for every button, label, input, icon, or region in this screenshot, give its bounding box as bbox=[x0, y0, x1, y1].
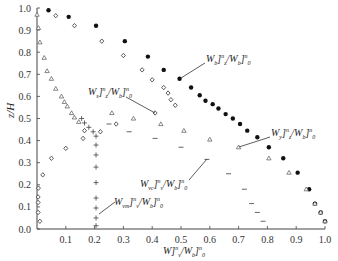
data-point bbox=[59, 94, 63, 98]
data-point bbox=[267, 156, 271, 160]
data-point bbox=[287, 170, 291, 174]
data-point bbox=[64, 146, 68, 150]
curve-label-vm: Wvm]nv/Wb]n0 bbox=[114, 196, 163, 209]
curve-label-vc: Wvc]nv/Wb]n0 bbox=[140, 178, 187, 191]
data-point bbox=[100, 39, 104, 43]
data-point bbox=[69, 111, 73, 115]
data-points bbox=[35, 8, 327, 228]
data-point bbox=[94, 165, 99, 170]
data-point bbox=[255, 135, 259, 139]
data-point bbox=[231, 116, 235, 120]
x-axis-label-den-sub2: 0 bbox=[202, 252, 205, 258]
data-point bbox=[267, 145, 271, 149]
x-axis-label-sup: n bbox=[175, 245, 178, 251]
label-den: /W bbox=[139, 196, 150, 207]
label-sup: n bbox=[158, 178, 161, 184]
data-point bbox=[162, 68, 166, 72]
data-point bbox=[49, 77, 53, 81]
leader-line-b bbox=[181, 63, 205, 78]
data-point bbox=[238, 122, 242, 126]
y-axis-label: z/H bbox=[5, 103, 16, 118]
x-axis-label-den: /W bbox=[181, 245, 192, 256]
data-point bbox=[91, 129, 96, 134]
x-tick-label: 0.1 bbox=[60, 234, 73, 245]
y-tick-label: 0.7 bbox=[19, 69, 32, 80]
curve-label-s: Ws]nz/Wb]n0 bbox=[88, 86, 132, 99]
label-den-sup: n bbox=[157, 196, 160, 202]
label-den: /W bbox=[227, 53, 238, 64]
data-point bbox=[62, 100, 66, 104]
y-tick-label: 0.9 bbox=[19, 25, 32, 36]
data-point bbox=[72, 23, 76, 27]
data-point bbox=[189, 85, 193, 89]
label-sup: n bbox=[286, 127, 289, 133]
x-tick-label: 0.3 bbox=[117, 234, 130, 245]
label-sup: n bbox=[133, 196, 136, 202]
x-tick-label: 0.2 bbox=[88, 234, 101, 245]
data-point bbox=[208, 137, 212, 141]
data-point bbox=[216, 106, 220, 110]
label-den-sub2: 0 bbox=[248, 60, 251, 66]
data-point bbox=[38, 40, 42, 44]
data-point bbox=[182, 128, 186, 132]
y-tick-label: 0.3 bbox=[19, 157, 32, 168]
tick-labels: 0.10.20.30.40.50.60.70.80.91.00.00.10.20… bbox=[19, 3, 332, 246]
data-point bbox=[159, 122, 163, 126]
leader-line-y bbox=[239, 137, 270, 147]
leader-line-vc bbox=[189, 159, 207, 180]
label-den-sup: n bbox=[181, 178, 184, 184]
data-point bbox=[72, 115, 76, 119]
label-den-sup: n bbox=[126, 86, 129, 92]
leader-line-vm bbox=[99, 202, 115, 214]
y-tick-label: 0.5 bbox=[19, 113, 32, 124]
data-point bbox=[94, 23, 98, 27]
data-point bbox=[166, 91, 170, 95]
series-plus bbox=[79, 116, 98, 228]
data-point bbox=[223, 112, 227, 116]
y-tick-label: 0.0 bbox=[19, 224, 32, 235]
data-point bbox=[54, 86, 58, 90]
label-den-sup: n bbox=[309, 127, 312, 133]
data-point bbox=[94, 152, 99, 157]
data-point bbox=[42, 56, 46, 60]
data-point bbox=[83, 128, 87, 132]
label-den-sub2: 0 bbox=[312, 134, 315, 140]
label-den-sup: n bbox=[245, 53, 248, 59]
data-point bbox=[169, 98, 173, 102]
data-point bbox=[198, 93, 202, 97]
x-tick-label: 1.0 bbox=[319, 234, 332, 245]
data-point bbox=[86, 125, 91, 130]
label-den: /W bbox=[163, 178, 174, 189]
y-tick-label: 0.2 bbox=[19, 179, 32, 190]
data-point bbox=[94, 196, 99, 201]
label-sup: n bbox=[221, 53, 224, 59]
data-point bbox=[295, 170, 299, 174]
curve-label-b: Wb]nz/Wb]n0 bbox=[206, 53, 251, 66]
data-point bbox=[82, 120, 87, 125]
data-point bbox=[210, 102, 214, 106]
y-tick-label: 0.6 bbox=[19, 91, 32, 102]
label-den-sub2: 0 bbox=[129, 93, 132, 99]
data-point bbox=[94, 180, 99, 185]
data-point bbox=[94, 143, 99, 148]
leader-line-s bbox=[126, 97, 155, 113]
data-point bbox=[79, 116, 84, 121]
label-den-sub2: 0 bbox=[184, 185, 187, 191]
data-point bbox=[203, 99, 207, 103]
data-point bbox=[77, 120, 81, 124]
data-point bbox=[121, 53, 125, 57]
x-tick-label: 0.4 bbox=[146, 234, 159, 245]
data-point bbox=[81, 136, 85, 140]
data-point bbox=[45, 69, 49, 73]
data-point bbox=[150, 78, 154, 82]
data-point bbox=[94, 134, 99, 139]
x-axis-label-den-sup: n bbox=[199, 245, 202, 251]
data-point bbox=[146, 54, 150, 58]
curve-label-y: Wy]nz/Wb]n0 bbox=[271, 127, 315, 140]
data-point bbox=[65, 104, 69, 108]
data-point bbox=[41, 173, 45, 177]
data-point bbox=[162, 85, 166, 89]
data-point bbox=[123, 39, 127, 43]
data-point bbox=[94, 215, 99, 220]
y-tick-label: 1.0 bbox=[19, 3, 32, 14]
